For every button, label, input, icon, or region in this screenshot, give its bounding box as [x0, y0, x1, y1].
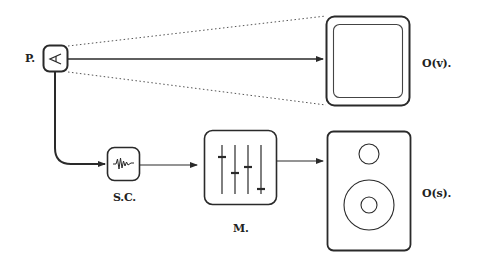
sound-output-label: O(s). [422, 187, 451, 200]
edge-p-to-soundcard [55, 72, 105, 164]
perceiver-node [44, 46, 68, 72]
mixer-node [205, 131, 277, 205]
view-cone [68, 16, 326, 105]
perceiver-label: P. [25, 52, 35, 65]
sound-output-node [328, 132, 411, 251]
visual-output-node [327, 17, 410, 106]
mixer-label: M. [233, 222, 249, 235]
diagram-canvas: P. S.C. M. O(v). O(s). [0, 0, 477, 266]
monitor-screen-icon [334, 25, 403, 98]
visual-output-label: O(v). [422, 57, 451, 70]
sound-card-node [108, 148, 140, 181]
sound-card-label: S.C. [113, 191, 136, 204]
